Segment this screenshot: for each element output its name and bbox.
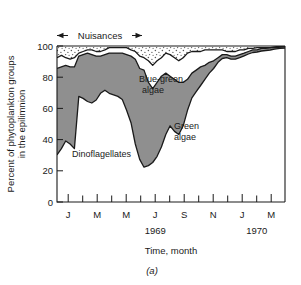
figure-caption: (a) bbox=[146, 265, 158, 276]
figure-container: 100 80 60 40 20 0 Percent of phytoplankt… bbox=[0, 0, 301, 285]
phytoplankton-area-chart: 100 80 60 40 20 0 Percent of phytoplankt… bbox=[0, 0, 301, 285]
year-label-1969: 1969 bbox=[145, 225, 166, 236]
blue-green-algae-label-line1: Blue-green bbox=[139, 74, 183, 84]
blue-green-algae-label-line2: algae bbox=[142, 85, 164, 95]
y-axis-title-line2: in the epilimnion bbox=[16, 90, 27, 159]
year-label-1970: 1970 bbox=[246, 225, 267, 236]
nuisances-label: Nuisances bbox=[78, 30, 123, 41]
y-axis-title-line1: Percent of phytoplankton groups bbox=[5, 55, 16, 192]
y-tick-label-80: 80 bbox=[42, 72, 53, 83]
nuisances-annotation: Nuisances bbox=[57, 29, 142, 42]
plot-area bbox=[57, 46, 285, 202]
dinoflagellates-label: Dinoflagellates bbox=[72, 149, 132, 159]
green-algae-label-line1: Green bbox=[174, 121, 199, 131]
x-tick-label-4: J bbox=[153, 209, 158, 220]
nuisances-arrow-left-head bbox=[57, 33, 64, 38]
x-axis-title: Time, month bbox=[145, 245, 197, 256]
x-tick-label-2: M bbox=[93, 209, 101, 220]
y-tick-label-20: 20 bbox=[42, 165, 53, 176]
x-tick-label-3: M bbox=[122, 209, 130, 220]
x-tick-label-7: J bbox=[240, 209, 245, 220]
x-tick-label-1: J bbox=[66, 209, 71, 220]
x-tick-label-8: M bbox=[267, 209, 275, 220]
x-tick-label-5: S bbox=[181, 209, 187, 220]
x-axis: J M M J S N J M 1969 1970 Time, month bbox=[66, 194, 275, 256]
x-tick-label-6: N bbox=[210, 209, 217, 220]
y-tick-label-100: 100 bbox=[37, 41, 53, 52]
nuisances-arrow-right-head bbox=[136, 33, 143, 38]
y-tick-label-60: 60 bbox=[42, 103, 53, 114]
y-axis: 100 80 60 40 20 0 Percent of phytoplankt… bbox=[0, 0, 63, 208]
green-algae-label-line2: algae bbox=[174, 132, 196, 142]
y-tick-label-0: 0 bbox=[48, 197, 53, 208]
y-tick-label-40: 40 bbox=[42, 134, 53, 145]
